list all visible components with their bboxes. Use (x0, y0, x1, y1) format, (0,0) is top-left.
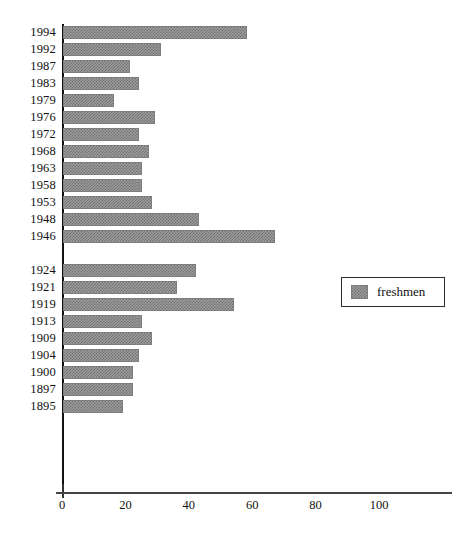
bar (63, 281, 177, 295)
bar-row: 1976 (0, 109, 461, 126)
bar-row: 1953 (0, 194, 461, 211)
bar-row: 1904 (0, 347, 461, 364)
bar-row: 1963 (0, 160, 461, 177)
bar-row: 1909 (0, 330, 461, 347)
bar-row: 1968 (0, 143, 461, 160)
y-axis-label: 1900 (0, 364, 56, 381)
bar (63, 26, 247, 40)
y-axis-label: 1921 (0, 279, 56, 296)
y-axis-label: 1946 (0, 228, 56, 245)
x-tick-label: 0 (59, 498, 65, 513)
y-axis-label: 1913 (0, 313, 56, 330)
y-axis-label: 1963 (0, 160, 56, 177)
bar-row: 1979 (0, 92, 461, 109)
bar (63, 60, 130, 74)
y-axis-label: 1919 (0, 296, 56, 313)
bar (63, 264, 196, 278)
bar (63, 298, 234, 312)
y-axis-label: 1897 (0, 381, 56, 398)
legend-swatch-freshmen (351, 285, 368, 299)
bar (63, 94, 114, 108)
bar-rows: 1994199219871983197919761972196819631958… (0, 24, 461, 492)
bar (63, 77, 139, 91)
y-axis-label: 1953 (0, 194, 56, 211)
legend-label-freshmen: freshmen (377, 284, 425, 300)
bar (63, 162, 142, 176)
bar (63, 111, 155, 125)
y-axis-label: 1979 (0, 92, 56, 109)
y-axis-label: 1983 (0, 75, 56, 92)
y-axis-label: 1968 (0, 143, 56, 160)
x-tick-label: 60 (246, 498, 259, 513)
bar (63, 315, 142, 329)
x-axis-line (56, 492, 452, 494)
bar (63, 179, 142, 193)
y-axis-label: 1909 (0, 330, 56, 347)
bar-row: 1987 (0, 58, 461, 75)
bar-chart: 1994199219871983197919761972196819631958… (0, 0, 461, 538)
y-axis-label: 1895 (0, 398, 56, 415)
bar-row: 1897 (0, 381, 461, 398)
x-tick-label: 100 (370, 498, 389, 513)
y-axis-label: 1972 (0, 126, 56, 143)
y-axis-label: 1992 (0, 41, 56, 58)
bar (63, 128, 139, 142)
bar (63, 145, 149, 159)
bar (63, 213, 199, 227)
bar-row: 1994 (0, 24, 461, 41)
bar-row: 1948 (0, 211, 461, 228)
bar (63, 332, 152, 346)
y-axis-label: 1958 (0, 177, 56, 194)
bar (63, 400, 123, 414)
y-axis-label: 1948 (0, 211, 56, 228)
bar (63, 196, 152, 210)
x-tick-label: 80 (309, 498, 322, 513)
y-axis-label: 1924 (0, 262, 56, 279)
bar (63, 230, 275, 244)
bar-row: 1895 (0, 398, 461, 415)
bar (63, 383, 133, 397)
bar-row: 1992 (0, 41, 461, 58)
bar-row: 1972 (0, 126, 461, 143)
bar-row: 1958 (0, 177, 461, 194)
y-axis-label: 1987 (0, 58, 56, 75)
x-tick-label: 20 (119, 498, 132, 513)
bar (63, 43, 161, 57)
bar-row: 1900 (0, 364, 461, 381)
bar (63, 349, 139, 363)
y-axis-label: 1976 (0, 109, 56, 126)
y-axis-label: 1994 (0, 24, 56, 41)
bar-row: 1913 (0, 313, 461, 330)
bar-row: 1946 (0, 228, 461, 245)
bar-row: 1983 (0, 75, 461, 92)
legend: freshmen (341, 277, 445, 307)
bar (63, 366, 133, 380)
x-tick-label: 40 (183, 498, 196, 513)
x-axis-tick-labels: 020406080100 (0, 498, 461, 518)
bar-row-spacer (0, 245, 461, 262)
y-axis-label: 1904 (0, 347, 56, 364)
